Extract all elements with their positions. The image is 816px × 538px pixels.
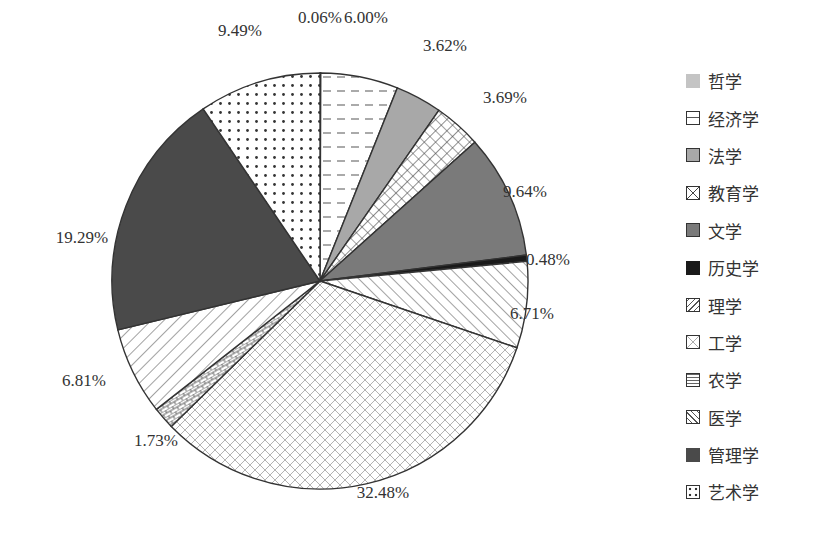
swatch-icon [686, 373, 700, 387]
swatch-icon [686, 485, 700, 499]
pie-slices [112, 73, 528, 489]
swatch-icon [686, 111, 700, 125]
swatch-icon [686, 186, 700, 200]
swatch-icon [686, 261, 700, 275]
legend-item-law: 法学 [686, 137, 759, 174]
legend-item-agriculture: 农学 [686, 361, 759, 398]
legend-item-literature: 文学 [686, 212, 759, 249]
swatch-icon [686, 448, 700, 462]
legend-item-education: 教育学 [686, 174, 759, 211]
legend-item-arts: 艺术学 [686, 473, 759, 510]
legend-item-management: 管理学 [686, 436, 759, 473]
slice-percent-label: 9.49% [218, 21, 262, 40]
slice-percent-label: 32.48% [357, 483, 409, 502]
swatch-icon [686, 335, 700, 349]
slice-percent-label: 3.69% [483, 88, 527, 107]
legend-item-philosophy: 哲学 [686, 62, 759, 99]
slice-percent-label: 1.73% [134, 431, 178, 450]
swatch-icon [686, 410, 700, 424]
swatch-icon [686, 148, 700, 162]
legend: 哲学 经济学 法学 教育学 文学 历史学 理学 工学 农学 医学 管理学 艺术学 [686, 62, 759, 511]
slice-percent-label: 0.48% [526, 250, 570, 269]
legend-item-economics: 经济学 [686, 99, 759, 136]
slice-percent-label: 6.71% [510, 304, 554, 323]
legend-item-engineering: 工学 [686, 324, 759, 361]
slice-percent-label: 19.29% [56, 228, 108, 247]
slice-percent-label: 3.62% [423, 36, 467, 55]
slice-percent-label: 9.64% [503, 182, 547, 201]
slice-percent-label: 6.81% [62, 371, 106, 390]
legend-item-science: 理学 [686, 286, 759, 323]
legend-item-medicine: 医学 [686, 399, 759, 436]
swatch-icon [686, 298, 700, 312]
swatch-icon [686, 223, 700, 237]
slice-percent-label: 0.06% [298, 8, 342, 27]
swatch-icon [686, 74, 700, 88]
legend-item-history: 历史学 [686, 249, 759, 286]
slice-percent-label: 6.00% [344, 8, 388, 27]
